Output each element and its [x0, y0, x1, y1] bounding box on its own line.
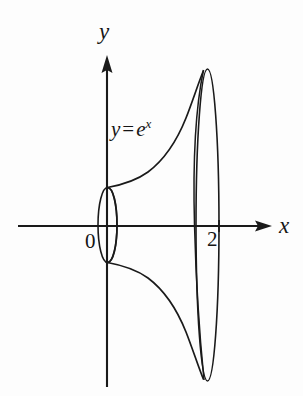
lower-exponential-curve [108, 263, 204, 380]
x-axis-label: x [279, 214, 289, 237]
axes-group [18, 55, 272, 387]
curve-equation-label: y=ex [111, 117, 151, 140]
curve-equation-exponent: x [146, 116, 152, 131]
curve-equation-base: e [136, 117, 145, 141]
figure-canvas: y x y=ex 0 2 [0, 0, 303, 396]
curve-equation-equals: = [120, 117, 136, 141]
curve-equation-lhs: y [111, 117, 120, 141]
y-axis-label: y [99, 20, 109, 43]
x-tick-label-two: 2 [207, 229, 218, 250]
solid-of-revolution-figure [0, 0, 303, 396]
x-tick-label-zero: 0 [85, 231, 96, 252]
